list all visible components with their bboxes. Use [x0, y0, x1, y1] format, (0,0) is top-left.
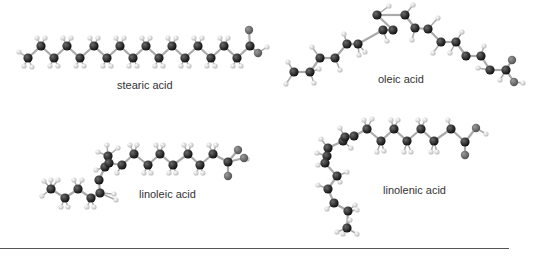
carbon-atom	[315, 53, 324, 62]
hydrogen-atom	[60, 35, 65, 40]
hydrogen-atom	[139, 35, 144, 40]
carbon-atom	[128, 53, 137, 62]
hydrogen-atom	[225, 35, 230, 40]
carbon-atom	[86, 193, 95, 202]
hydrogen-atom	[318, 136, 323, 141]
hydrogen-atom	[127, 142, 132, 147]
hydrogen-atom	[316, 66, 321, 71]
hydrogen-atom	[520, 80, 525, 85]
hydrogen-atom	[362, 49, 367, 54]
hydrogen-atom	[95, 149, 100, 154]
hydrogen-atom	[230, 63, 235, 68]
hydrogen-atom	[58, 204, 63, 209]
carbon-atom	[223, 157, 232, 166]
carbon-atom	[485, 65, 494, 74]
carbon-atom	[195, 160, 204, 169]
hydrogen-atom	[121, 35, 126, 40]
carbon-atom	[289, 67, 298, 76]
carbon-atom	[501, 65, 510, 74]
hydrogen-atom	[81, 63, 86, 68]
carbon-atom	[343, 206, 352, 215]
carbon-atom	[75, 53, 84, 62]
hydrogen-atom	[73, 63, 78, 68]
carbon-atom	[89, 41, 98, 50]
hydrogen-atom	[200, 170, 205, 175]
hydrogen-atom	[147, 35, 152, 40]
hydrogen-atom	[324, 206, 329, 211]
hydrogen-atom	[104, 142, 109, 147]
hydrogen-atom	[410, 2, 415, 7]
carbon-atom	[206, 53, 215, 62]
hydrogen-atom	[434, 149, 439, 154]
hydrogen-atom	[87, 35, 92, 40]
carbon-atom	[167, 41, 176, 50]
hydrogen-atom	[84, 204, 89, 209]
hydrogen-atom	[481, 43, 486, 48]
hydrogen-atom	[134, 142, 139, 147]
hydrogen-atom	[93, 167, 98, 172]
hydrogen-atom	[91, 204, 96, 209]
hydrogen-atom	[108, 63, 113, 68]
hydrogen-atom	[459, 29, 464, 34]
hydrogen-atom	[166, 170, 171, 175]
carbon-atom	[23, 53, 32, 62]
carbon-atom	[305, 67, 314, 76]
carbon-atom	[349, 131, 358, 140]
hydrogen-atom	[55, 177, 60, 182]
hydrogen-atom	[422, 117, 427, 122]
carbon-atom	[323, 184, 332, 193]
hydrogen-atom	[113, 197, 118, 202]
hydrogen-atom	[283, 81, 288, 86]
hydrogen-atom	[48, 177, 53, 182]
carbon-atom	[329, 198, 338, 207]
carbon-atom	[460, 137, 469, 146]
oxygen-atom	[234, 146, 242, 154]
hydrogen-atom	[29, 64, 34, 69]
hydrogen-atom	[309, 44, 314, 49]
carbon-atom	[36, 41, 45, 50]
hydrogen-atom	[369, 116, 374, 121]
hydrogen-atom	[354, 231, 359, 236]
oxygen-atom	[254, 49, 262, 57]
hydrogen-atom	[264, 44, 269, 49]
carbon-atom	[378, 25, 387, 34]
hydrogen-atom	[178, 63, 183, 68]
carbon-atom	[168, 160, 177, 169]
hydrogen-atom	[445, 117, 450, 122]
hydrogen-atom	[42, 35, 47, 40]
hydrogen-atom	[314, 150, 319, 155]
carbon-atom	[49, 53, 58, 62]
hydrogen-atom	[348, 145, 353, 150]
oxygen-atom	[472, 124, 480, 132]
carbon-atom	[476, 51, 485, 60]
carbon-atom	[320, 158, 329, 167]
hydrogen-atom	[408, 149, 413, 154]
hydrogen-atom	[213, 142, 218, 147]
carbon-atom	[46, 184, 55, 193]
hydrogen-atom	[186, 63, 191, 68]
carbon-atom	[342, 39, 351, 48]
hydrogen-atom	[347, 217, 352, 222]
hydrogen-atom	[361, 117, 366, 122]
hydrogen-atom	[199, 35, 204, 40]
oxygen-atom	[461, 151, 469, 159]
carbon-atom	[104, 158, 113, 167]
hydrogen-atom	[430, 50, 435, 55]
hydrogen-atom	[160, 63, 165, 68]
carbon-atom	[353, 39, 362, 48]
hydrogen-atom	[285, 59, 290, 64]
hydrogen-atom	[21, 63, 26, 68]
carbon-atom	[73, 184, 82, 193]
carbon-atom	[183, 149, 192, 158]
hydrogen-atom	[315, 182, 320, 187]
carbon-atom	[155, 149, 164, 158]
carbon-atom	[342, 223, 351, 232]
hydrogen-atom	[428, 149, 433, 154]
hydrogen-atom	[341, 31, 346, 36]
hydrogen-atom	[68, 35, 73, 40]
carbon-atom	[332, 171, 341, 180]
oxygen-atom	[245, 26, 253, 34]
hydrogen-atom	[113, 35, 118, 40]
hydrogen-atom	[475, 65, 480, 70]
hydrogen-atom	[204, 63, 209, 68]
